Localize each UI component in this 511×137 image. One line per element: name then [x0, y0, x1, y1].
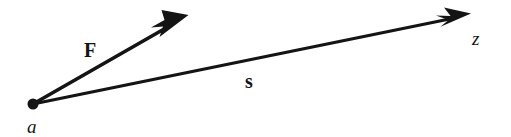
vector-diagram-canvas — [0, 0, 511, 137]
vector-f-shaft — [33, 25, 172, 105]
vector-label-f: F — [84, 40, 96, 60]
origin-point-dot — [28, 99, 39, 110]
vector-f — [33, 10, 189, 104]
vector-diagram-figure: F s a z — [0, 0, 511, 137]
vector-s-arrowhead — [436, 8, 471, 27]
point-label-a: a — [27, 117, 37, 136]
vector-s-shaft — [33, 19, 452, 105]
vector-label-s: s — [245, 71, 253, 91]
point-label-z: z — [472, 29, 479, 48]
